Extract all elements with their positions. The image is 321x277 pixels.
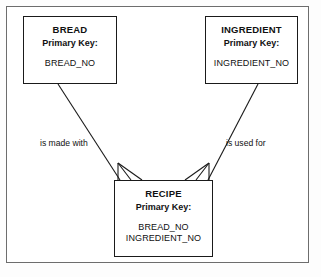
entity-name-ingredient: INGREDIENT bbox=[206, 24, 297, 35]
entity-box-bread[interactable]: BREAD Primary Key: BREAD_NO bbox=[23, 16, 117, 84]
crowfoot-ingredient-prong-3 bbox=[185, 163, 209, 180]
entity-pk-label-recipe: Primary Key: bbox=[115, 202, 212, 213]
relationship-label-is-made-with: is made with bbox=[40, 138, 88, 148]
entity-name-recipe: RECIPE bbox=[115, 188, 212, 199]
entity-name-bread: BREAD bbox=[24, 24, 116, 35]
entity-attributes-bread: BREAD_NO bbox=[24, 58, 116, 69]
entity-pk-label-ingredient: Primary Key: bbox=[206, 38, 297, 49]
entity-box-ingredient[interactable]: INGREDIENT Primary Key: INGREDIENT_NO bbox=[205, 16, 298, 84]
entity-attribute: INGREDIENT_NO bbox=[115, 233, 212, 244]
relationship-label-is-used-for: is used for bbox=[226, 138, 266, 148]
entity-attributes-recipe: BREAD_NO INGREDIENT_NO bbox=[115, 222, 212, 244]
crowfoot-bread-prong-3 bbox=[118, 163, 142, 180]
entity-pk-label-bread: Primary Key: bbox=[24, 38, 116, 49]
er-diagram-canvas: BREAD Primary Key: BREAD_NO INGREDIENT P… bbox=[0, 0, 321, 277]
entity-attribute: INGREDIENT_NO bbox=[206, 58, 297, 69]
entity-attribute: BREAD_NO bbox=[24, 58, 116, 69]
connector-line-bread-recipe bbox=[58, 84, 120, 180]
entity-attributes-ingredient: INGREDIENT_NO bbox=[206, 58, 297, 69]
entity-box-recipe[interactable]: RECIPE Primary Key: BREAD_NO INGREDIENT_… bbox=[114, 180, 213, 257]
entity-attribute: BREAD_NO bbox=[115, 222, 212, 233]
connector-line-ingredient-recipe bbox=[208, 84, 258, 180]
